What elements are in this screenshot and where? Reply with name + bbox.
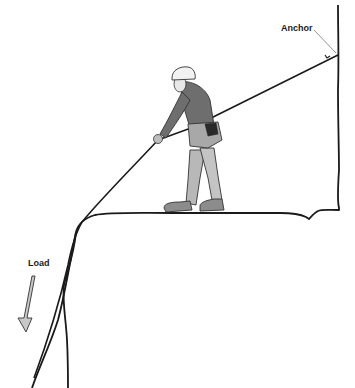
load-arrow-icon [18, 276, 35, 332]
helmet-icon [172, 67, 195, 80]
climber-figure [154, 67, 225, 212]
climber-arm [160, 92, 190, 138]
anchor-icon [325, 55, 330, 58]
climber-hand [154, 135, 163, 144]
anchor-label: Anchor [281, 24, 313, 33]
climber-back-boot [164, 201, 192, 212]
climber-harness [188, 122, 222, 148]
rope-load-segment [34, 140, 158, 378]
climber-back-leg [186, 150, 205, 205]
climber-front-leg [200, 148, 222, 200]
diagram-canvas [0, 0, 355, 388]
climber-front-boot [200, 199, 224, 211]
anchor-leader-line [314, 30, 336, 53]
load-label: Load [28, 259, 50, 268]
ledge-edge [32, 213, 170, 388]
